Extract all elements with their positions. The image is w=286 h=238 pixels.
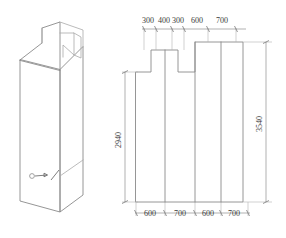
left-vertical-dimension: 2940 — [114, 71, 138, 204]
top-dim-value-4: 700 — [216, 16, 228, 25]
iso-notch — [60, 33, 74, 57]
bottom-dim-value-1: 700 — [174, 209, 186, 218]
iso-lower-bevel — [60, 160, 83, 176]
section-origin-circle — [30, 174, 35, 179]
iso-right-face — [60, 47, 83, 212]
right-vertical-dimension: 3540 — [243, 41, 272, 204]
right-dim-value: 3540 — [255, 116, 264, 132]
bottom-dimension-chain: 600 700 600 700 — [135, 202, 251, 218]
elevation-outline — [136, 42, 243, 202]
isometric-view — [20, 22, 83, 212]
iso-front-face — [20, 60, 60, 212]
bottom-dim-value-0: 600 — [144, 209, 156, 218]
iso-step-top-left — [20, 22, 60, 70]
top-dimension-chain: 300 400 300 600 700 — [142, 16, 246, 50]
left-dim-value: 2940 — [114, 132, 123, 148]
top-dim-value-0: 300 — [142, 16, 154, 25]
top-dim-value-1: 400 — [158, 16, 170, 25]
top-dim-value-3: 600 — [191, 16, 203, 25]
iso-notch-back — [74, 33, 81, 58]
section-arrow-tail — [51, 170, 59, 180]
elevation-view — [136, 42, 243, 202]
technical-drawing-canvas: 300 400 300 600 700 600 700 600 700 2940 — [0, 0, 286, 238]
bottom-dim-value-3: 700 — [228, 209, 240, 218]
bottom-dim-value-2: 600 — [202, 209, 214, 218]
iso-top-back-edge — [60, 22, 83, 47]
top-dim-value-2: 300 — [172, 16, 184, 25]
